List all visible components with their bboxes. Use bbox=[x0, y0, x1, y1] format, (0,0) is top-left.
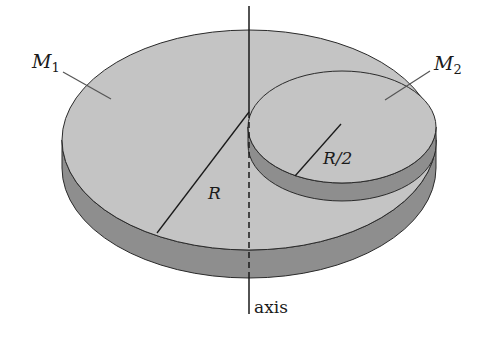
radius-r-label: R bbox=[207, 183, 221, 203]
small-disk bbox=[248, 71, 436, 201]
m1-label: M1 bbox=[31, 50, 60, 75]
radius-r-half-label: R/2 bbox=[322, 148, 352, 168]
axis-label: axis bbox=[254, 297, 288, 317]
disk-diagram: M1 M2 R R/2 axis bbox=[0, 0, 490, 341]
m2-label: M2 bbox=[433, 52, 462, 77]
